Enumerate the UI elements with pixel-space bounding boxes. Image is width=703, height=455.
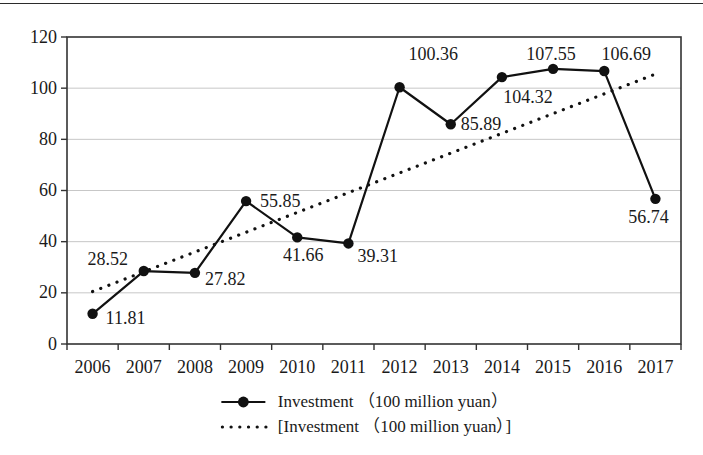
data-point-marker xyxy=(292,232,302,242)
data-point-marker xyxy=(87,309,97,319)
legend-label-investment: Investment （100 million yuan） xyxy=(278,391,508,413)
legend-item-investment-trend: [Investment （100 million yuan）] xyxy=(220,416,511,438)
data-point-marker xyxy=(650,194,660,204)
legend-label-investment-trend: [Investment （100 million yuan）] xyxy=(278,416,511,438)
chart-legend: Investment （100 million yuan） [Investmen… xyxy=(220,391,511,438)
data-point-label: 104.32 xyxy=(503,87,553,107)
y-axis-tick-label: 0 xyxy=(48,334,57,354)
y-axis-tick-label: 80 xyxy=(39,129,57,149)
x-axis-tick-label: 2013 xyxy=(433,357,469,377)
x-axis-tick-label: 2008 xyxy=(177,357,213,377)
legend-solid-line-marker-icon xyxy=(220,395,268,409)
y-axis-tick-label: 60 xyxy=(39,180,57,200)
data-point-label: 11.81 xyxy=(106,308,146,328)
y-axis-tick-label: 100 xyxy=(30,78,57,98)
data-point-marker xyxy=(241,196,251,206)
data-point-marker xyxy=(343,238,353,248)
x-axis-tick-label: 2007 xyxy=(126,357,162,377)
data-point-label: 107.55 xyxy=(526,44,576,64)
data-point-label: 41.66 xyxy=(283,245,324,265)
data-point-marker xyxy=(190,268,200,278)
data-point-label: 100.36 xyxy=(409,44,459,64)
x-axis-tick-label: 2006 xyxy=(75,357,111,377)
y-axis-tick-label: 40 xyxy=(39,231,57,251)
x-axis-tick-label: 2010 xyxy=(279,357,315,377)
data-point-marker xyxy=(394,82,404,92)
x-axis-tick-label: 2012 xyxy=(382,357,418,377)
x-axis-tick-label: 2014 xyxy=(484,357,520,377)
data-point-label: 55.85 xyxy=(260,191,301,211)
data-point-marker xyxy=(497,72,507,82)
legend-item-investment: Investment （100 million yuan） xyxy=(220,391,511,413)
x-axis-tick-label: 2009 xyxy=(228,357,264,377)
data-point-label: 106.69 xyxy=(602,44,652,64)
y-axis-tick-label: 120 xyxy=(30,27,57,47)
x-axis-tick-label: 2016 xyxy=(586,357,622,377)
data-point-marker xyxy=(548,64,558,74)
data-point-label: 27.82 xyxy=(205,269,246,289)
x-axis-tick-label: 2017 xyxy=(637,357,673,377)
data-point-marker xyxy=(446,119,456,129)
line-chart: 0204060801001202006200720082009201020112… xyxy=(0,0,703,388)
x-axis-tick-label: 2011 xyxy=(331,357,366,377)
data-point-label: 28.52 xyxy=(88,249,129,269)
chart-figure: 0204060801001202006200720082009201020112… xyxy=(0,0,703,455)
data-point-marker xyxy=(599,66,609,76)
data-point-label: 56.74 xyxy=(628,207,669,227)
x-axis-tick-label: 2015 xyxy=(535,357,571,377)
legend-dotted-line-icon xyxy=(220,420,268,434)
data-point-label: 39.31 xyxy=(357,246,398,266)
y-axis-tick-label: 20 xyxy=(39,282,57,302)
data-point-marker xyxy=(139,266,149,276)
data-point-label: 85.89 xyxy=(461,114,502,134)
